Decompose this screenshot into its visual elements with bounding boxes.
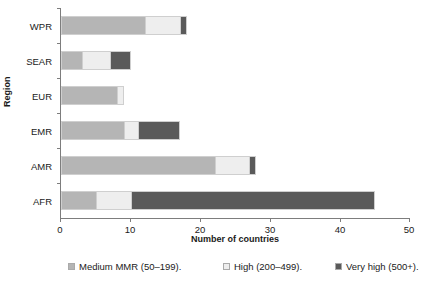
y-axis-tick <box>57 183 61 184</box>
plot-area: WPR SEAR EUR <box>60 8 409 218</box>
bar-segment-medium <box>61 156 215 175</box>
bar-segment-medium <box>61 191 96 210</box>
y-axis-tick <box>57 43 61 44</box>
stacked-bar-emr <box>61 121 180 140</box>
maternal-mortality-bar-chart: Region WPR SEAR EUR <box>0 0 423 285</box>
stacked-bar-sear <box>61 51 131 70</box>
x-axis-tick <box>340 218 341 222</box>
y-axis-tick <box>57 148 61 149</box>
bar-segment-medium <box>61 51 82 70</box>
stacked-bar-wpr <box>61 16 187 35</box>
legend-label-very-high: Very high (500+). <box>346 261 419 272</box>
x-axis-tick <box>200 218 201 222</box>
chart-legend: Medium MMR (50–199). High (200–499). Ver… <box>60 261 415 275</box>
y-axis-tick <box>57 8 61 9</box>
bar-segment-very-high <box>138 121 180 140</box>
x-axis-title: Number of countries <box>60 234 410 244</box>
x-axis-tick <box>130 218 131 222</box>
bar-segment-very-high <box>110 51 131 70</box>
bar-segment-very-high <box>180 16 187 35</box>
y-axis-tick <box>57 78 61 79</box>
bar-segment-medium <box>61 86 117 105</box>
legend-swatch-icon <box>223 263 230 270</box>
y-axis-label-amr: AMR <box>31 160 52 171</box>
y-axis-label-emr: EMR <box>31 125 52 136</box>
y-axis-label-wpr: WPR <box>30 20 52 31</box>
legend-swatch-icon <box>335 263 342 270</box>
bar-segment-high <box>124 121 138 140</box>
legend-label-medium: Medium MMR (50–199). <box>79 261 181 272</box>
bar-segment-high <box>117 86 124 105</box>
y-axis-tick <box>57 113 61 114</box>
bar-segment-very-high <box>249 156 256 175</box>
legend-item-high: High (200–499). <box>223 261 302 272</box>
bar-segment-high <box>82 51 110 70</box>
x-axis-line <box>60 218 410 219</box>
stacked-bar-afr <box>61 191 375 210</box>
bar-segment-high <box>215 156 250 175</box>
y-axis-label-sear: SEAR <box>26 55 52 66</box>
legend-label-high: High (200–499). <box>234 261 302 272</box>
bar-segment-medium <box>61 121 124 140</box>
bar-segment-high <box>145 16 180 35</box>
x-axis-tick <box>60 218 61 222</box>
y-axis-label-afr: AFR <box>33 195 52 206</box>
stacked-bar-eur <box>61 86 124 105</box>
stacked-bar-amr <box>61 156 256 175</box>
bar-segment-very-high <box>131 191 375 210</box>
legend-swatch-icon <box>68 263 75 270</box>
y-axis-title: Region <box>2 93 12 107</box>
bar-segment-medium <box>61 16 145 35</box>
legend-item-medium: Medium MMR (50–199). <box>68 261 181 272</box>
x-axis-tick <box>270 218 271 222</box>
legend-item-very-high: Very high (500+). <box>335 261 419 272</box>
x-axis-tick <box>409 218 410 222</box>
bar-segment-high <box>96 191 131 210</box>
y-axis-label-eur: EUR <box>32 90 52 101</box>
